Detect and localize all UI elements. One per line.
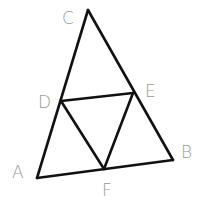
triangle-diagram: A B C D E F [0, 0, 202, 215]
label-a: A [12, 162, 24, 182]
label-c: C [62, 8, 74, 28]
label-d: D [38, 92, 51, 112]
segment-bc [88, 10, 173, 160]
segment-de [61, 93, 133, 101]
label-e: E [145, 81, 156, 101]
label-f: F [102, 180, 112, 200]
segment-fd [61, 101, 104, 169]
inner-triangle [61, 93, 133, 169]
segment-ef [104, 93, 133, 169]
label-b: B [181, 142, 192, 162]
